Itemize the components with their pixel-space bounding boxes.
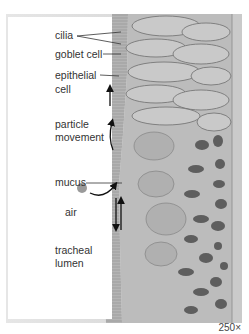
label-goblet-cell: goblet cell <box>55 48 102 61</box>
curved-arrow-icon <box>90 185 115 195</box>
curved-up-arrow-icon <box>110 122 113 150</box>
label-air: air <box>65 206 77 219</box>
epithelial-leader-line <box>100 75 119 76</box>
label-tracheal-lumen: lumen <box>55 257 84 270</box>
label-particle-movement: movement <box>55 131 104 144</box>
annotation-overlay <box>0 0 249 334</box>
label-tracheal: tracheal <box>55 244 92 257</box>
label-particle: particle <box>55 118 89 131</box>
label-epithelial-cell: cell <box>55 83 71 96</box>
label-epithelial: epithelial <box>55 69 96 82</box>
magnification-caption: 250× <box>218 322 241 333</box>
cilia-leader-line <box>77 32 121 36</box>
cilia-leader-line-2 <box>77 36 121 44</box>
label-mucus: mucus <box>55 176 86 189</box>
label-cilia: cilia <box>55 29 73 42</box>
